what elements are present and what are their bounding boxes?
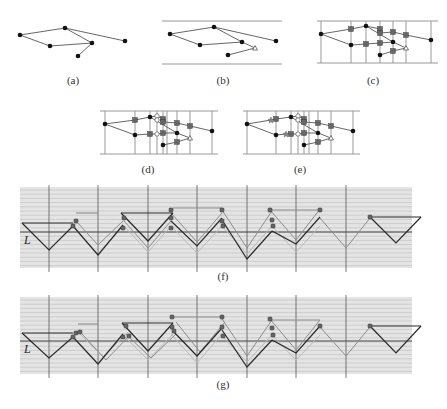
junction-node-icon: [220, 315, 224, 319]
junction-node-icon: [172, 329, 176, 333]
axis-label-L: L: [23, 342, 31, 356]
junction-node-icon: [368, 324, 372, 328]
junction-node-icon: [71, 335, 75, 339]
junction-node-icon: [220, 325, 224, 329]
junction-node-icon: [170, 315, 174, 319]
caption-g: (g): [208, 378, 238, 390]
junction-node-icon: [318, 324, 322, 328]
junction-node-icon: [74, 331, 78, 335]
junction-node-icon: [221, 334, 225, 338]
zigzag-diagram-g: L: [0, 0, 447, 409]
junction-node-icon: [170, 325, 174, 329]
junction-node-icon: [121, 335, 125, 339]
junction-node-icon: [268, 317, 272, 321]
junction-node-icon: [78, 330, 82, 334]
junction-node-icon: [127, 334, 131, 338]
junction-node-icon: [124, 324, 128, 328]
junction-node-icon: [270, 326, 274, 330]
junction-node-icon: [271, 333, 275, 337]
panel-g: L: [0, 0, 447, 409]
